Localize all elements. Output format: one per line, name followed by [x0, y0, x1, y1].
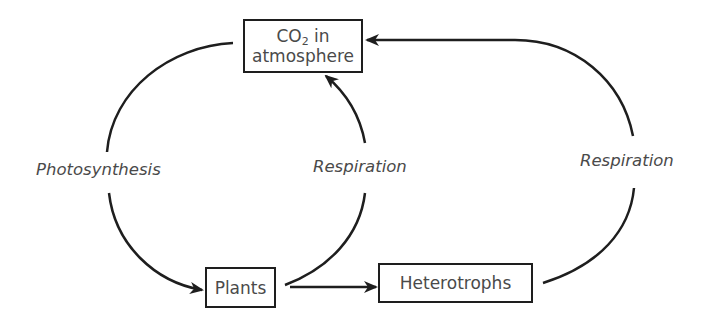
- heterotroph-respiration-arrow-upper: [367, 40, 633, 136]
- respiration-heterotrophs-label: Respiration: [580, 151, 674, 170]
- carbon-cycle-diagram: CO2 in atmosphere Plants Heterotrophs Ph…: [0, 0, 712, 329]
- respiration-plants-label: Respiration: [313, 157, 407, 176]
- node-heterotrophs: Heterotrophs: [378, 263, 533, 303]
- co2-label-line2: atmosphere: [252, 46, 354, 66]
- node-plants: Plants: [205, 267, 276, 308]
- node-co2-atmosphere: CO2 in atmosphere: [243, 19, 363, 73]
- photosynthesis-label: Photosynthesis: [36, 160, 161, 179]
- co2-label-line1: CO2 in: [276, 26, 329, 46]
- heterotrophs-label: Heterotrophs: [400, 273, 512, 293]
- plants-label: Plants: [215, 278, 267, 298]
- heterotroph-respiration-arc-lower: [543, 188, 634, 283]
- plant-respiration-arc-lower: [285, 193, 365, 285]
- plant-respiration-arrow-upper: [326, 76, 365, 143]
- photosynthesis-arrow-lower: [109, 193, 202, 290]
- photosynthesis-arc-upper: [107, 43, 233, 152]
